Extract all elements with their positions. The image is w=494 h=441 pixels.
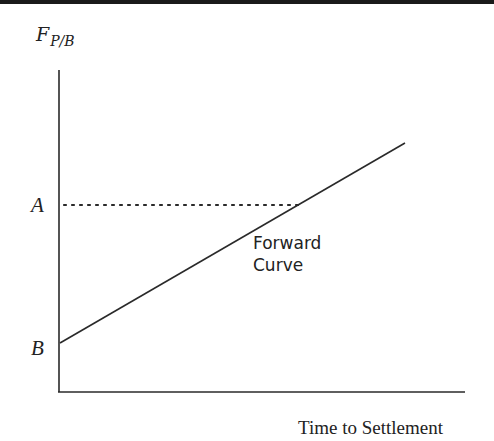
y-axis-title-main: F	[36, 23, 49, 45]
chart-plot	[0, 0, 494, 441]
y-axis-title: FP/B	[36, 23, 75, 45]
tick-label-a: A	[31, 193, 44, 218]
forward-curve-label-line2: Curve	[253, 254, 321, 276]
forward-curve-label: Forward Curve	[253, 232, 321, 276]
y-axis-title-subscript: P/B	[50, 33, 74, 49]
tick-label-b: B	[31, 336, 44, 361]
forward-curve-label-line1: Forward	[253, 232, 321, 254]
forward-curve-line	[60, 143, 405, 343]
x-axis-title: Time to Settlement	[298, 417, 443, 439]
